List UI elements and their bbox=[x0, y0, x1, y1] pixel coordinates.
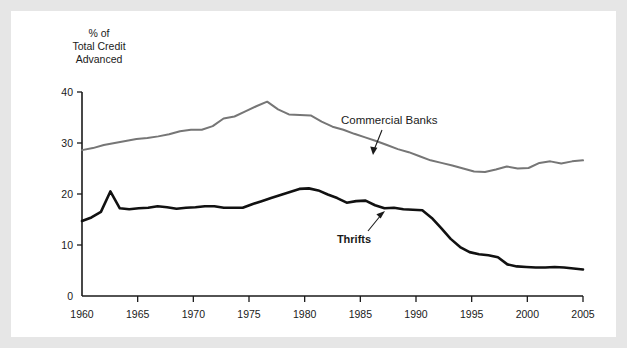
y-tick-label: 20 bbox=[61, 188, 73, 200]
annotation-label-commercial-banks: Commercial Banks bbox=[341, 114, 438, 126]
x-tick-label: 1965 bbox=[126, 308, 150, 320]
annotation-thrifts: Thrifts bbox=[337, 211, 385, 245]
x-tick-label: 1995 bbox=[460, 308, 484, 320]
x-tick-label: 2005 bbox=[571, 308, 595, 320]
x-axis: 1960196519701975198019851990199520002005 bbox=[70, 296, 595, 320]
y-axis: 010203040 bbox=[61, 86, 82, 302]
y-axis-title: % of Total Credit Advanced bbox=[72, 27, 125, 65]
series-line-thrifts bbox=[82, 188, 583, 269]
series-line-commercial-banks bbox=[82, 102, 583, 172]
y-axis-title-line-2: Total Credit bbox=[72, 40, 125, 52]
y-axis-title-line-1: % of bbox=[88, 27, 109, 39]
y-tick-label: 10 bbox=[61, 239, 73, 251]
x-tick-label: 1985 bbox=[349, 308, 373, 320]
y-axis-title-line-3: Advanced bbox=[76, 53, 123, 65]
x-tick-label: 1970 bbox=[182, 308, 206, 320]
x-tick-label: 1990 bbox=[404, 308, 428, 320]
line-chart: % of Total Credit Advanced 010203040 196… bbox=[0, 0, 627, 348]
y-tick-label: 30 bbox=[61, 137, 73, 149]
x-tick-label: 1975 bbox=[237, 308, 261, 320]
x-tick-label: 1980 bbox=[293, 308, 317, 320]
annotation-label-thrifts: Thrifts bbox=[337, 233, 371, 245]
chart-figure: % of Total Credit Advanced 010203040 196… bbox=[0, 0, 627, 348]
x-tick-label: 1960 bbox=[70, 308, 94, 320]
y-tick-label: 40 bbox=[61, 86, 73, 98]
y-tick-label: 0 bbox=[67, 290, 73, 302]
x-tick-label: 2000 bbox=[516, 308, 540, 320]
